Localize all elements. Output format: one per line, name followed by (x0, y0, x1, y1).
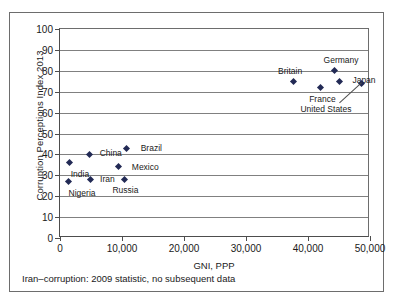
y-tick (55, 154, 60, 155)
gridline (60, 217, 368, 218)
y-axis-title: Corruption Perceptions Index 2013 (34, 36, 45, 216)
y-tick (55, 175, 60, 176)
data-point-label: Britain (278, 66, 302, 76)
data-point-label: Brazil (141, 143, 162, 153)
x-tick-label: 20,000 (169, 243, 200, 254)
x-tick (60, 236, 61, 241)
x-tick (122, 236, 123, 241)
data-point-label: China (100, 148, 122, 158)
data-point (115, 163, 122, 170)
y-tick (55, 196, 60, 197)
y-tick-label: 100 (36, 24, 53, 35)
y-tick (55, 134, 60, 135)
y-tick-label: 40 (42, 149, 53, 160)
x-tick (246, 236, 247, 241)
y-tick-label: 30 (42, 170, 53, 181)
data-point (330, 67, 337, 74)
data-point (335, 78, 342, 85)
data-point-label: France (309, 94, 335, 104)
x-tick-label: 10,000 (107, 243, 138, 254)
y-tick-label: 10 (42, 212, 53, 223)
x-tick-label: 30,000 (231, 243, 262, 254)
data-point-label: India (71, 169, 89, 179)
y-tick (55, 113, 60, 114)
x-tick (308, 236, 309, 241)
y-tick (55, 71, 60, 72)
x-tick-label: 40,000 (293, 243, 324, 254)
data-point-label: Germany (324, 55, 359, 65)
y-tick-label: 80 (42, 65, 53, 76)
data-point-label: Mexico (132, 162, 159, 172)
data-point-label: Nigeria (69, 188, 96, 198)
y-tick (55, 217, 60, 218)
x-tick-label: 0 (57, 243, 63, 254)
y-tick-label: 20 (42, 191, 53, 202)
data-point (121, 176, 128, 183)
data-point (317, 84, 324, 91)
x-axis-title: GNI, PPP (59, 260, 369, 271)
data-point (66, 159, 73, 166)
data-point (123, 145, 130, 152)
data-point (65, 178, 72, 185)
data-point (87, 176, 94, 183)
data-point (86, 151, 93, 158)
x-tick (370, 236, 371, 241)
footnote: Iran–corruption: 2009 statistic, no subs… (22, 273, 235, 284)
plot-area: 0102030405060708090100 010,00020,00030,0… (59, 28, 369, 237)
y-tick-label: 70 (42, 86, 53, 97)
y-tick (55, 92, 60, 93)
gridline (60, 71, 368, 72)
label-leader-line (339, 83, 362, 104)
data-point-label: Iran (100, 174, 115, 184)
data-point-label: Russia (112, 185, 138, 195)
x-tick-label: 50,000 (355, 243, 386, 254)
gridline (60, 134, 368, 135)
y-tick-label: 50 (42, 128, 53, 139)
gridline (60, 196, 368, 197)
gridline (60, 50, 368, 51)
y-tick-label: 90 (42, 44, 53, 55)
y-tick-label: 60 (42, 107, 53, 118)
data-point (290, 78, 297, 85)
data-point-label: United States (300, 104, 351, 114)
x-tick (184, 236, 185, 241)
chart-figure: Corruption Perceptions Index 2013 010203… (9, 12, 384, 292)
y-tick-label: 0 (47, 233, 53, 244)
y-tick (55, 50, 60, 51)
y-tick (55, 29, 60, 30)
